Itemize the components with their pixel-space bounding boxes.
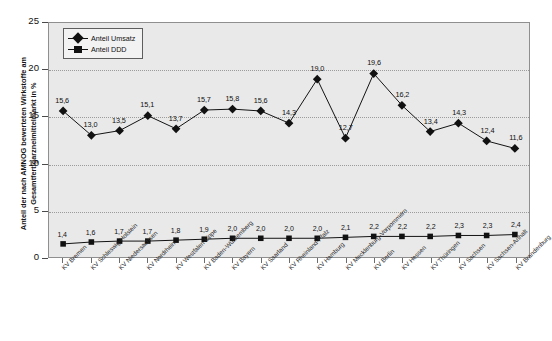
data-label: 2,3	[454, 222, 463, 229]
y-axis-tick-label: 20	[28, 62, 39, 73]
data-point-marker-diamond[interactable]	[143, 111, 152, 120]
data-point-marker-diamond[interactable]	[228, 105, 237, 114]
data-label: 1,4	[57, 231, 66, 238]
data-point-marker-diamond[interactable]	[172, 124, 181, 133]
data-label: 13,4	[424, 117, 438, 126]
data-point-marker-diamond[interactable]	[454, 119, 463, 128]
data-label: 15,6	[254, 96, 268, 105]
data-point-marker-square[interactable]	[258, 236, 264, 242]
data-point-marker-diamond[interactable]	[313, 75, 322, 84]
data-label: 15,7	[197, 95, 211, 104]
diamond-marker-icon	[68, 34, 88, 43]
data-label: 2,0	[256, 225, 265, 232]
data-point-marker-square[interactable]	[89, 239, 95, 245]
y-axis-tick-label: 25	[28, 15, 39, 26]
data-point-marker-diamond[interactable]	[256, 107, 265, 116]
data-point-marker-diamond[interactable]	[482, 137, 491, 146]
data-point-marker-diamond[interactable]	[511, 144, 520, 153]
legend-item-umsatz[interactable]: Anteil Umsatz	[68, 33, 135, 43]
data-point-marker-square[interactable]	[427, 234, 433, 240]
y-axis-tick-label: 5	[34, 204, 39, 215]
data-label: 15,6	[55, 96, 69, 105]
data-label: 1,8	[171, 227, 180, 234]
data-label: 15,8	[225, 94, 239, 103]
data-label: 13,7	[169, 114, 183, 123]
data-label: 1,6	[86, 229, 95, 236]
data-point-marker-diamond[interactable]	[115, 126, 124, 135]
data-label: 14,3	[452, 108, 466, 117]
data-point-marker-square[interactable]	[456, 233, 462, 239]
chart-legend: Anteil Umsatz Anteil DDD	[63, 28, 143, 59]
data-label: 2,2	[398, 223, 407, 230]
data-point-marker-diamond[interactable]	[285, 119, 294, 128]
legend-label-umsatz: Anteil Umsatz	[91, 34, 135, 43]
data-label: 19,6	[367, 58, 381, 67]
data-point-marker-square[interactable]	[343, 235, 349, 241]
data-label: 14,3	[282, 108, 296, 117]
legend-label-ddd: Anteil DDD	[91, 45, 127, 54]
y-axis-tick-label: 0	[34, 251, 39, 262]
data-label: 2,3	[483, 222, 492, 229]
data-label: 2,0	[284, 225, 293, 232]
legend-item-ddd[interactable]: Anteil DDD	[68, 44, 135, 54]
data-point-marker-diamond[interactable]	[200, 106, 209, 115]
data-point-marker-square[interactable]	[399, 234, 405, 240]
data-label: 13,5	[112, 116, 126, 125]
square-marker-icon	[68, 45, 88, 54]
data-label: 15,1	[140, 100, 154, 109]
y-axis-tick-label: 15	[28, 109, 39, 120]
y-axis-tick-label: 10	[28, 157, 39, 168]
data-label: 13,0	[84, 120, 98, 129]
data-point-marker-diamond[interactable]	[341, 134, 350, 143]
data-label: 12,7	[339, 123, 353, 132]
data-point-marker-square[interactable]	[60, 241, 66, 247]
data-label: 19,0	[310, 64, 324, 73]
data-point-marker-square[interactable]	[286, 236, 292, 242]
data-label: 2,1	[341, 224, 350, 231]
data-label: 2,4	[511, 221, 520, 228]
data-label: 11,6	[509, 133, 522, 142]
data-label: 2,2	[369, 223, 378, 230]
data-label: 2,2	[426, 223, 435, 230]
data-label: 16,2	[396, 90, 410, 99]
y-axis-title: Anteil der nach AMNOG bewerteten Wirksto…	[19, 19, 38, 269]
data-point-marker-square[interactable]	[484, 233, 490, 239]
data-label: 12,4	[481, 126, 495, 135]
